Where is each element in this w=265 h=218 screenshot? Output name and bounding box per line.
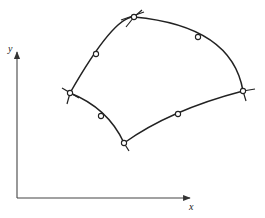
corner-nodes xyxy=(67,14,245,145)
node-corner-left xyxy=(67,90,72,95)
node-mid-bottom-left xyxy=(98,113,103,118)
edge-bottom-left xyxy=(70,93,124,143)
node-corner-right xyxy=(240,88,245,93)
node-corner-top xyxy=(131,14,136,19)
edge-bottom-right xyxy=(124,91,243,143)
edge-top-left xyxy=(70,17,134,93)
element-diagram: y x xyxy=(0,0,265,218)
node-mid-top-right xyxy=(195,34,200,39)
element-edges xyxy=(70,17,243,143)
edge-top-right xyxy=(134,17,243,91)
axes xyxy=(17,52,190,198)
node-corner-bottom xyxy=(121,140,126,145)
y-axis-label: y xyxy=(8,44,12,54)
node-mid-top-left xyxy=(93,51,98,56)
corner-ticks xyxy=(62,10,255,151)
node-mid-bottom-right xyxy=(175,111,180,116)
midside-nodes xyxy=(93,34,200,118)
x-axis-label: x xyxy=(189,202,193,212)
diagram-svg xyxy=(0,0,265,218)
